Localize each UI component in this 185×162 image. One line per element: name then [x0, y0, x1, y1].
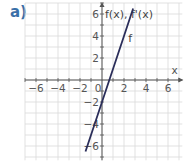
chart-panel: a) −6−4−20246−6−4−2246xf(x), f'(x)f: [0, 0, 185, 162]
y-tick-label: −2: [84, 96, 99, 108]
x-tick-label: −6: [28, 82, 44, 94]
coordinate-plot: −6−4−20246−6−4−2246xf(x), f'(x)f: [0, 0, 185, 162]
x-tick-label: −4: [50, 82, 66, 94]
x-tick-label: 2: [121, 82, 128, 94]
y-tick-label: 6: [92, 8, 99, 20]
x-tick-label: 0: [95, 82, 102, 94]
x-axis-label: x: [171, 64, 177, 76]
y-tick-label: 4: [92, 30, 99, 42]
x-tick-label: −2: [72, 82, 87, 94]
function-label: f: [128, 32, 133, 45]
y-tick-label: 2: [92, 52, 99, 64]
x-tick-label: 4: [143, 82, 150, 94]
x-tick-label: 6: [165, 82, 172, 94]
